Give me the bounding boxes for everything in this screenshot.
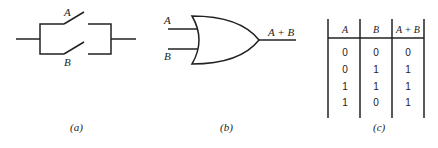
cell: 0	[330, 64, 360, 75]
header-output: A + B	[392, 24, 424, 35]
cell: 1	[361, 64, 391, 75]
input-a-label: A	[164, 14, 171, 26]
cell: 1	[393, 97, 423, 108]
output-label: A + B	[268, 26, 294, 38]
cell: 1	[361, 81, 391, 92]
cell: 1	[330, 81, 360, 92]
cell: 0	[330, 47, 360, 58]
header-b: B	[361, 24, 391, 35]
input-b-label: B	[164, 50, 171, 62]
cell: 0	[393, 47, 423, 58]
header-a: A	[330, 24, 360, 35]
switch-a-label: A	[64, 6, 71, 18]
cell: 0	[361, 97, 391, 108]
cell: 0	[361, 47, 391, 58]
cell: 1	[393, 64, 423, 75]
cell: 1	[393, 81, 423, 92]
caption-b: (b)	[220, 121, 233, 133]
caption-a: (a)	[70, 121, 83, 133]
switch-b-label: B	[64, 56, 71, 68]
caption-c: (c)	[373, 121, 385, 133]
cell: 1	[330, 97, 360, 108]
